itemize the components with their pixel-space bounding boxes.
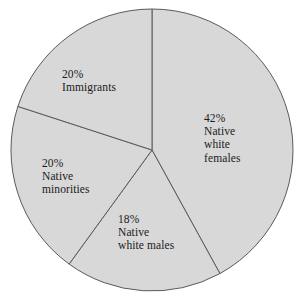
- slice-label-text-line: minorities: [42, 183, 90, 196]
- slice-label-text-line: Native: [42, 170, 90, 183]
- slice-label-text-line: white: [204, 138, 240, 151]
- slice-label-immigrants: 20% Immigrants: [62, 68, 116, 94]
- pie-chart-svg: [0, 0, 303, 299]
- slice-label-native-white-males: 18% Native white males: [118, 213, 174, 253]
- slice-label-percent: 20%: [62, 68, 116, 81]
- slice-label-text-line: Native: [118, 226, 174, 239]
- slice-label-text-line: white males: [118, 239, 174, 252]
- slice-label-percent: 20%: [42, 157, 90, 170]
- slice-label-text-line: Immigrants: [62, 81, 116, 94]
- slice-label-percent: 18%: [118, 213, 174, 226]
- slice-label-text-line: Native: [204, 125, 240, 138]
- slice-label-text-line: females: [204, 152, 240, 165]
- slice-label-native-white-females: 42% Native white females: [204, 112, 240, 165]
- slice-label-native-minorities: 20% Native minorities: [42, 157, 90, 197]
- slice-label-percent: 42%: [204, 112, 240, 125]
- pie-chart-figure: 42% Native white females 20% Immigrants …: [0, 0, 303, 299]
